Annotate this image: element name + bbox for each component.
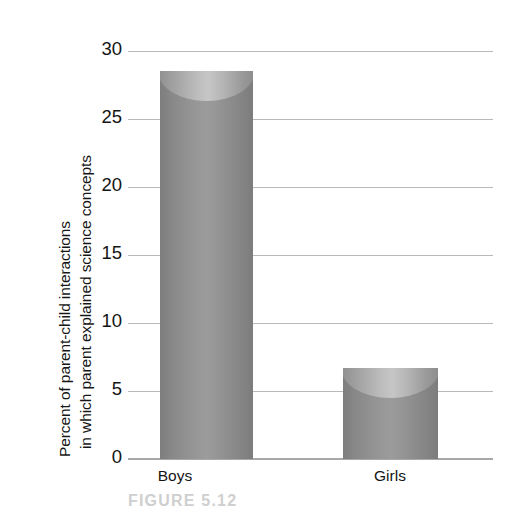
gridline <box>128 51 493 52</box>
y-tick-label: 15 <box>88 244 122 263</box>
plot-area <box>128 51 493 459</box>
y-tick-label: 0 <box>88 448 122 467</box>
bar-top-cap <box>160 71 253 105</box>
y-tick-label: 10 <box>88 312 122 331</box>
figure-caption: FIGURE 5.12 <box>128 491 488 506</box>
y-axis-title-line-1: Percent of parent-child interactions <box>56 221 74 457</box>
y-tick-label: 5 <box>88 380 122 399</box>
bar-girls[interactable] <box>343 368 438 459</box>
y-tick-label: 20 <box>88 176 122 195</box>
x-tick-label-girls: Girls <box>335 468 445 484</box>
x-tick-label-boys: Boys <box>120 468 230 484</box>
figure-container: Percent of parent-child interactions in … <box>0 0 511 506</box>
y-axis-tick-labels: 30 25 20 15 10 5 0 <box>88 51 122 459</box>
bar-boys[interactable] <box>160 71 253 459</box>
bar-top-cap <box>343 368 438 402</box>
y-tick-label: 30 <box>88 40 122 59</box>
y-tick-label: 25 <box>88 108 122 127</box>
